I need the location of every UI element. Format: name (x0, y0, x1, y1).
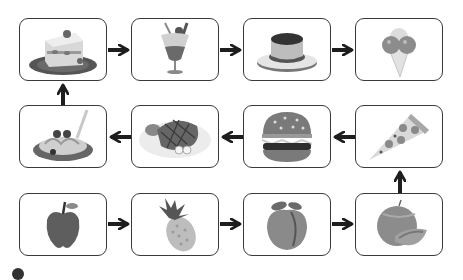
corner-marker (12, 268, 24, 280)
